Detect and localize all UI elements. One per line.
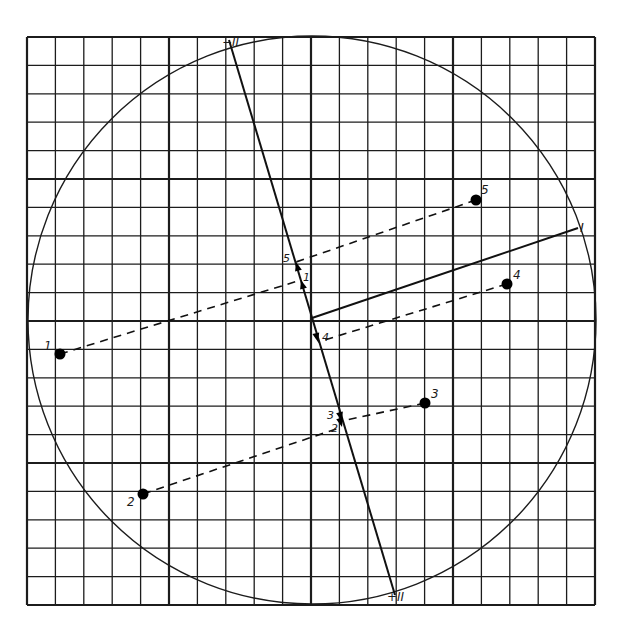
- data-points: [55, 195, 513, 500]
- diagram-canvas: I−II+II1234551432: [0, 0, 619, 634]
- labels: I−II+II1234551432: [44, 35, 584, 604]
- projection-lines: [60, 200, 507, 494]
- point-label-5: 5: [481, 183, 489, 197]
- projection-label-3: 3: [327, 409, 334, 422]
- axis-II-positive-label: +II: [387, 590, 405, 604]
- point-label-2: 2: [127, 495, 135, 509]
- axis-I-label: I: [580, 220, 584, 235]
- projection-label-5: 5: [283, 252, 290, 265]
- data-point-5: [471, 195, 482, 206]
- projection-label-4: 4: [322, 331, 329, 344]
- projection-diagram: I−II+II1234551432: [0, 0, 619, 634]
- point-label-4: 4: [513, 268, 521, 282]
- projection-line-1: [60, 280, 301, 354]
- data-point-3: [420, 398, 431, 409]
- principal-axes: [229, 40, 578, 595]
- projection-line-5: [296, 200, 476, 262]
- grid: [27, 37, 595, 605]
- projection-line-2: [143, 427, 342, 494]
- axis-II-negative-label: −II: [222, 35, 240, 49]
- data-point-4: [502, 279, 513, 290]
- data-point-1: [55, 349, 66, 360]
- projection-label-2: 2: [331, 422, 338, 435]
- arrow-icon: [295, 262, 302, 272]
- point-label-3: 3: [431, 387, 439, 401]
- point-label-1: 1: [44, 339, 52, 353]
- data-point-2: [138, 489, 149, 500]
- projection-label-1: 1: [303, 271, 310, 284]
